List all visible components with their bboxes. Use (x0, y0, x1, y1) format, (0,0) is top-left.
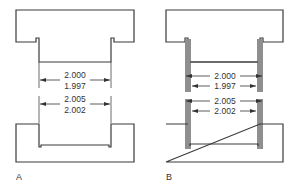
figure-b-hole-lower-limit: 2.002 (214, 106, 236, 116)
figure-a-hole-upper-limit: 2.005 (64, 94, 86, 104)
figure-b-slot-floor (190, 144, 258, 146)
figure-b-gauge-bar-upper-right (257, 39, 263, 92)
figure-b-label: B (166, 172, 172, 182)
figure-a-hole-outline (16, 124, 134, 162)
figure-a-hole-lower-limit: 2.002 (64, 105, 86, 115)
figure-a-shaft-upper-limit: 2.000 (64, 70, 86, 80)
tolerance-diagram: 2.000 1.997 2.005 2.002 A 2.000 1.997 (0, 0, 299, 184)
figure-a-shaft-lower-limit: 1.997 (64, 81, 86, 91)
figure-a-label: A (16, 172, 22, 182)
figure-a: 2.000 1.997 2.005 2.002 A (16, 10, 134, 182)
figure-b-shaft-outline (166, 10, 283, 62)
figure-b-gauge-bar-upper-left (185, 39, 191, 92)
figure-b-shaft-upper-limit: 2.000 (214, 71, 236, 81)
figure-b-hole-outline (166, 124, 283, 162)
figure-b: 2.000 1.997 2.005 2.002 B (166, 10, 283, 182)
figure-b-hole-upper-limit: 2.005 (214, 96, 236, 106)
figure-b-shaft-lower-limit: 1.997 (214, 81, 236, 91)
figure-a-shaft-outline (16, 10, 134, 62)
